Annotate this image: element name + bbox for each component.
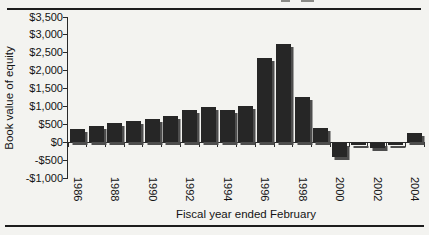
bar-1997 (276, 44, 291, 142)
bar-chart: Book value of equity $3,500$3,000$2,500$… (0, 0, 429, 235)
x-tick-label: 1994 (222, 177, 233, 201)
y-tick-label: $2,000 (14, 64, 63, 77)
y-axis-tick (63, 106, 67, 107)
y-axis-tick (63, 178, 67, 179)
y-axis-title-wrap: Book value of equity (0, 20, 18, 175)
x-tick-label: 1990 (147, 177, 158, 201)
bar-1990 (145, 119, 160, 143)
bar-1994 (220, 110, 235, 142)
category-tick (386, 142, 387, 147)
y-tick-label: $0 (14, 136, 63, 149)
y-axis-title: Book value of equity (3, 46, 15, 150)
category-tick (180, 142, 181, 147)
y-axis-tick (63, 17, 67, 18)
category-tick (292, 142, 293, 147)
category-tick (349, 142, 350, 147)
x-tick-label: 1998 (297, 177, 308, 201)
x-tick-label: 1996 (259, 177, 270, 201)
x-tick-label: 2002 (372, 177, 383, 201)
y-tick-label: $1,000 (14, 100, 63, 113)
y-axis-tick (63, 160, 67, 161)
bar-2004 (407, 133, 422, 142)
bar-1991 (163, 116, 178, 142)
y-tick-label: $2,500 (14, 46, 63, 59)
category-tick (330, 142, 331, 147)
category-tick (311, 142, 312, 147)
bar-1999 (313, 128, 328, 142)
y-axis-tick (63, 124, 67, 125)
x-tick-label: 1986 (72, 177, 83, 201)
y-axis-tick (63, 88, 67, 89)
category-tick (424, 142, 425, 147)
y-axis-tick (63, 52, 67, 53)
bar-1989 (126, 121, 141, 142)
bar-1987 (89, 126, 104, 142)
x-tick-label: 1992 (184, 177, 195, 201)
y-tick-label: $3,000 (14, 28, 63, 41)
category-tick (105, 142, 106, 147)
x-tick-label: 2004 (409, 177, 420, 201)
x-axis-title: Fiscal year ended February (68, 208, 424, 220)
category-tick (405, 142, 406, 147)
bar-1986 (70, 129, 85, 143)
bar-1998 (295, 97, 310, 142)
y-tick-label: -$1,000 (14, 172, 63, 185)
bar-1992 (182, 110, 197, 142)
category-tick (124, 142, 125, 147)
category-tick (161, 142, 162, 147)
bar-1993 (201, 107, 216, 142)
category-tick (217, 142, 218, 147)
y-tick-label: -$500 (14, 154, 63, 167)
bar-1995 (238, 106, 253, 142)
category-tick (236, 142, 237, 147)
category-tick (367, 142, 368, 147)
y-axis-tick (63, 34, 67, 35)
bar-1996 (257, 58, 272, 142)
y-axis-line (67, 17, 68, 179)
x-tick-label: 1988 (109, 177, 120, 201)
bar-2003 (388, 143, 403, 146)
chart-page: Book value of equity $3,500$3,000$2,500$… (0, 0, 429, 235)
bar-2001 (351, 143, 366, 145)
category-tick (68, 142, 69, 147)
category-tick (199, 142, 200, 147)
y-tick-label: $1,500 (14, 82, 63, 95)
y-tick-label: $3,500 (14, 11, 63, 24)
bar-1988 (107, 123, 122, 143)
category-tick (274, 142, 275, 147)
bar-2000 (332, 143, 347, 157)
bar-2002 (370, 143, 385, 148)
x-tick-label: 2000 (334, 177, 345, 201)
y-tick-label: $500 (14, 118, 63, 131)
bottom-horizontal-rule (5, 225, 424, 227)
y-axis-tick (63, 70, 67, 71)
category-tick (86, 142, 87, 147)
category-tick (142, 142, 143, 147)
category-tick (255, 142, 256, 147)
